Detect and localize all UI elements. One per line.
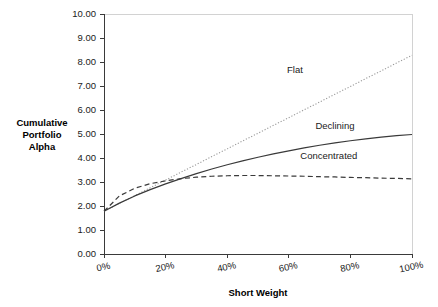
x-axis-ticks: 0%20%40%60%80%100% [95,254,424,274]
series-label-flat: Flat [287,64,303,75]
y-axis-title-line: Portfolio [22,129,61,140]
y-tick-label: 5.00 [78,128,97,139]
plot-frame [104,14,412,254]
y-tick-label: 3.00 [78,176,97,187]
x-tick-label: 100% [398,259,425,275]
x-tick-label: 60% [278,259,299,274]
y-tick-label: 8.00 [78,56,97,67]
y-tick-label: 2.00 [78,200,97,211]
y-axis-title-line: Cumulative [16,117,67,128]
y-axis-title: CumulativePortfolioAlpha [16,117,67,152]
series-line-flat [104,55,412,211]
x-axis-title: Short Weight [229,287,289,298]
y-tick-label: 4.00 [78,152,97,163]
series-labels: FlatDecliningConcentrated [287,64,357,161]
y-tick-label: 0.00 [78,248,97,259]
y-tick-label: 1.00 [78,224,97,235]
x-tick-label: 80% [339,259,360,274]
x-tick-label: 0% [95,260,111,274]
y-tick-label: 9.00 [78,32,97,43]
series-line-declining [104,134,412,211]
line-chart: 0.001.002.003.004.005.006.007.008.009.00… [0,0,438,307]
y-tick-label: 10.00 [72,8,96,19]
series-label-concentrated: Concentrated [300,150,357,161]
y-tick-label: 6.00 [78,104,97,115]
chart-container: 0.001.002.003.004.005.006.007.008.009.00… [0,0,438,307]
y-axis-title-line: Alpha [29,141,56,152]
x-tick-label: 20% [154,259,175,274]
series-lines [104,55,412,211]
y-axis-ticks: 0.001.002.003.004.005.006.007.008.009.00… [72,8,104,259]
y-tick-label: 7.00 [78,80,97,91]
x-tick-label: 40% [216,259,237,274]
series-label-declining: Declining [315,120,354,131]
series-line-concentrated [104,176,412,212]
